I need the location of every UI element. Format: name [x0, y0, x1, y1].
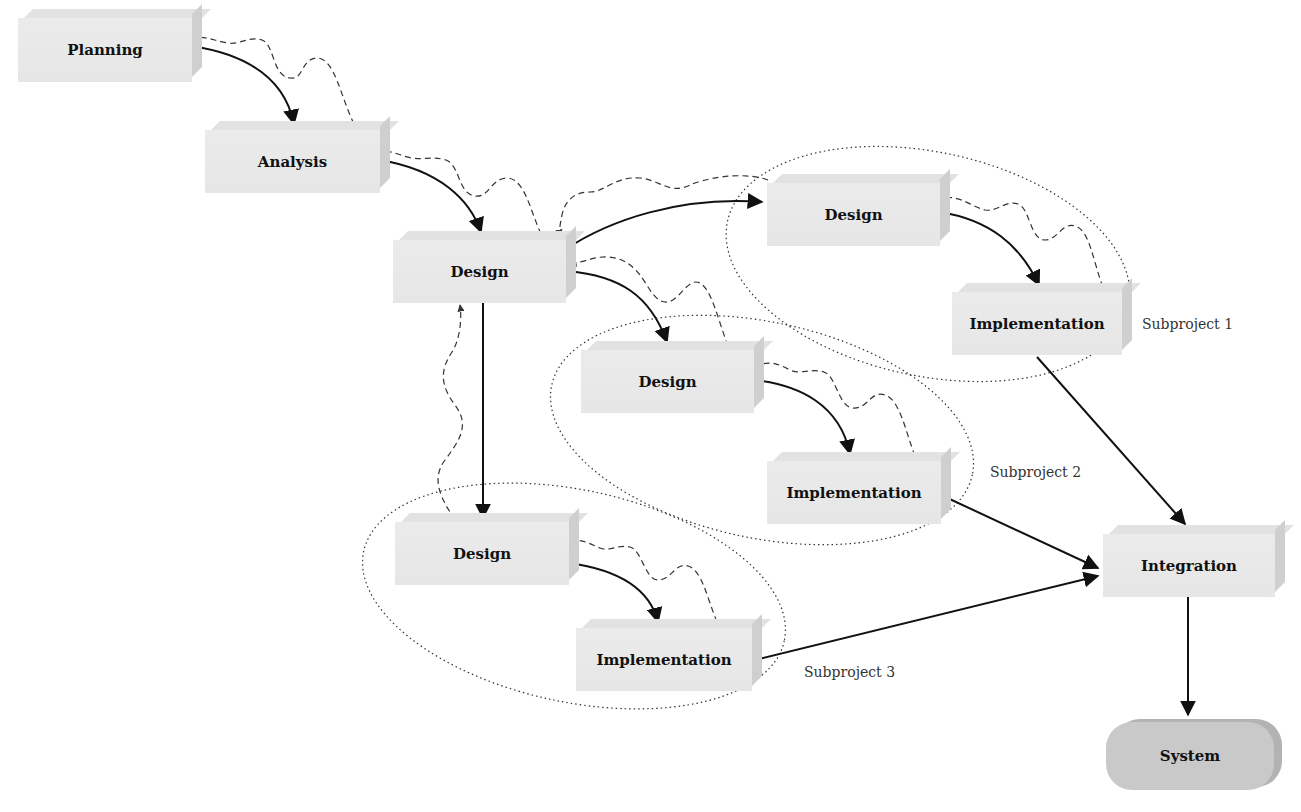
feedback-impl-sp1-to-design-sp1	[943, 197, 1103, 287]
subproject-2-boundary	[529, 280, 995, 581]
node-planning: Planning	[18, 18, 192, 82]
subproject-1-label: Subproject 1	[1142, 316, 1233, 332]
node-label: Integration	[1141, 557, 1237, 575]
arrow-design-sp2-to-impl-sp2	[754, 380, 850, 454]
node-label: Planning	[67, 41, 143, 59]
arrow-impl-sp1-to-integration	[1037, 357, 1185, 524]
node-label: Design	[824, 206, 882, 224]
node-system: System	[1106, 722, 1274, 790]
node-implementation-subproject-1: Implementation	[952, 292, 1122, 355]
feedback-impl-sp2-to-design-sp2	[757, 363, 915, 456]
node-label: Implementation	[786, 484, 921, 502]
feedback-design-sp1-to-design	[560, 176, 768, 236]
feedback-impl-sp3-to-design-sp3	[570, 541, 717, 622]
node-label: Implementation	[969, 315, 1104, 333]
feedback-design-to-analysis	[383, 152, 541, 234]
arrow-design-to-design-sp2	[568, 271, 667, 342]
subproject-2-label: Subproject 2	[990, 464, 1081, 480]
node-design-subproject-3: Design	[395, 522, 569, 585]
node-design-subproject-1: Design	[767, 183, 940, 246]
arrow-impl-sp2-to-integration	[941, 495, 1098, 568]
node-label: System	[1160, 747, 1220, 765]
node-label: Design	[453, 545, 511, 563]
node-label: Analysis	[258, 153, 327, 171]
node-label: Implementation	[596, 651, 731, 669]
arrow-impl-sp3-to-integration	[759, 576, 1098, 659]
node-design-main: Design	[393, 240, 566, 303]
node-implementation-subproject-2: Implementation	[767, 461, 941, 524]
subproject-1-boundary	[704, 112, 1152, 416]
arrow-design-sp1-to-impl-sp1	[940, 212, 1039, 285]
diagram-canvas: Planning Analysis Design Design Implemen…	[0, 0, 1301, 812]
node-label: Design	[638, 373, 696, 391]
subproject-3-boundary	[342, 448, 807, 745]
arrow-analysis-to-design	[380, 160, 481, 232]
arrow-planning-to-analysis	[192, 46, 294, 124]
arrow-design-sp3-to-impl-sp3	[569, 563, 658, 622]
node-analysis: Analysis	[205, 130, 380, 193]
node-label: Design	[450, 263, 508, 281]
node-design-subproject-2: Design	[581, 350, 754, 413]
arrow-design-to-design-sp1	[566, 201, 762, 249]
node-implementation-subproject-3: Implementation	[576, 628, 752, 691]
node-integration: Integration	[1103, 534, 1275, 597]
feedback-design-sp2-to-design	[570, 257, 728, 346]
feedback-analysis-to-planning	[195, 37, 354, 124]
subproject-3-label: Subproject 3	[804, 664, 895, 680]
